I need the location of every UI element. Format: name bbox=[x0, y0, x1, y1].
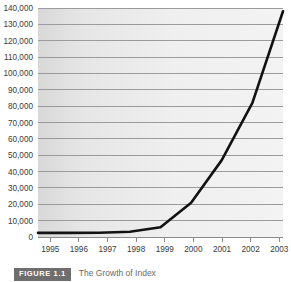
y-tick-label: 130,000 bbox=[3, 20, 33, 29]
chart-svg: 140,000 130,000 120,000 110,000 100,000 … bbox=[0, 0, 291, 258]
y-tick-label: 140,000 bbox=[3, 4, 33, 13]
y-tick-label: 0 bbox=[28, 233, 33, 242]
y-tick-label: 70,000 bbox=[8, 119, 33, 128]
x-axis-ticks bbox=[50, 237, 279, 242]
x-tick-label: 1996 bbox=[70, 245, 89, 254]
x-tick-label: 2000 bbox=[184, 245, 203, 254]
figure-container: 140,000 130,000 120,000 110,000 100,000 … bbox=[0, 0, 291, 282]
y-tick-label: 120,000 bbox=[3, 37, 33, 46]
y-tick-label: 30,000 bbox=[8, 184, 33, 193]
figure-number-badge: FIGURE 1.1 bbox=[14, 268, 71, 281]
x-tick-label: 2003 bbox=[270, 245, 289, 254]
x-axis-labels: 1995 1996 1997 1998 1999 2000 2001 2002 … bbox=[41, 245, 289, 254]
y-tick-label: 60,000 bbox=[8, 135, 33, 144]
x-tick-label: 1999 bbox=[156, 245, 175, 254]
x-tick-label: 1995 bbox=[41, 245, 60, 254]
x-tick-label: 2001 bbox=[213, 245, 232, 254]
y-axis-labels: 140,000 130,000 120,000 110,000 100,000 … bbox=[3, 4, 33, 242]
x-tick-label: 2002 bbox=[242, 245, 261, 254]
figure-caption-bar: FIGURE 1.1 The Growth of Index bbox=[0, 258, 291, 282]
x-tick-label: 1997 bbox=[98, 245, 117, 254]
y-tick-label: 80,000 bbox=[8, 102, 33, 111]
y-tick-label: 110,000 bbox=[4, 53, 33, 62]
y-tick-label: 90,000 bbox=[8, 86, 33, 95]
x-tick-label: 1998 bbox=[127, 245, 146, 254]
line-chart: 140,000 130,000 120,000 110,000 100,000 … bbox=[0, 0, 291, 258]
y-tick-label: 20,000 bbox=[8, 200, 33, 209]
figure-caption-text: The Growth of Index bbox=[79, 268, 156, 278]
y-tick-label: 10,000 bbox=[8, 217, 33, 226]
y-tick-label: 50,000 bbox=[8, 151, 33, 160]
y-tick-label: 40,000 bbox=[8, 168, 33, 177]
y-tick-label: 100,000 bbox=[3, 69, 33, 78]
